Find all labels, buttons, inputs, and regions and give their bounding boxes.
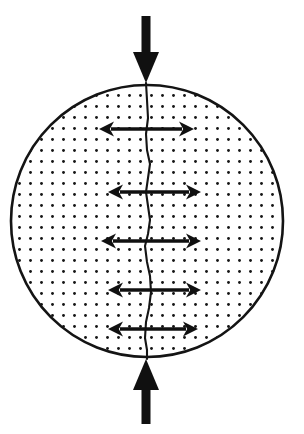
- load-arrow-shaft: [142, 390, 151, 424]
- load-arrow-shaft: [142, 16, 151, 52]
- diagram-canvas: [0, 0, 304, 434]
- brazilian-test-figure: Brazilian split tensile test schematic S…: [0, 0, 304, 434]
